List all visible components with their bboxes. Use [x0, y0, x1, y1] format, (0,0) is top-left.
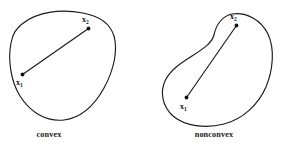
- nonconvex-x2-subscript: 2: [234, 16, 237, 22]
- caption-convex: convex: [36, 130, 62, 139]
- convex-point-x1-dot: [21, 73, 25, 77]
- convex-point-x2-dot: [87, 27, 91, 31]
- nonconvex-point-x2-dot: [235, 24, 239, 28]
- convex-x1-subscript: 1: [20, 82, 23, 88]
- panel-nonconvex: x1 x2 nonconvex: [162, 12, 272, 139]
- caption-nonconvex: nonconvex: [195, 130, 234, 139]
- nonconvex-point-x1-dot: [185, 96, 189, 100]
- nonconvex-point-x1-label: x1: [180, 102, 187, 112]
- convex-chord-segment: [23, 29, 89, 75]
- nonconvex-chord-segment: [187, 26, 237, 98]
- nonconvex-x1-subscript: 1: [184, 106, 187, 112]
- figure-canvas: x1 x2 convex x1 x2 nonconvex: [0, 0, 285, 148]
- convex-set-boundary: [10, 11, 116, 120]
- convexity-figure: x1 x2 convex x1 x2 nonconvex: [0, 0, 285, 148]
- convex-point-x1-label: x1: [16, 78, 23, 88]
- convex-x2-subscript: 2: [86, 19, 89, 25]
- panel-convex: x1 x2 convex: [10, 11, 116, 139]
- convex-point-x2-label: x2: [82, 15, 89, 25]
- nonconvex-set-boundary: [162, 14, 272, 127]
